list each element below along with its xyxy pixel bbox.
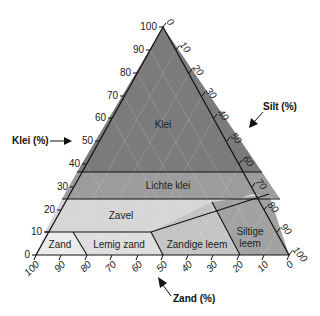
silt-axis-title: Silt (%) [263,101,297,112]
sand-tick: 90 [52,258,68,274]
sand-tick: 50 [154,258,170,274]
sand-tick: 20 [229,258,246,275]
clay-tick: 10 [31,226,43,237]
label-zand: Zand [49,239,72,250]
sand-arrow-icon [158,277,171,296]
clay-tick: 100 [140,21,157,32]
label-siltige-leem-2: leem [239,238,261,249]
sand-tick: 80 [78,258,94,274]
clay-axis-title: Klei (%) [12,135,49,146]
sand-tick: 30 [204,258,220,274]
label-lichte-klei: Lichte klei [146,180,190,191]
clay-tick: 40 [69,158,81,169]
clay-tick: 50 [82,135,94,146]
clay-tick: 20 [44,204,56,215]
silt-tick: 0 [164,16,176,28]
soil-texture-triangle: 100 90 80 70 60 50 40 30 20 10 0 0 10 20… [0,0,320,316]
clay-tick: 90 [133,44,145,55]
label-zavel: Zavel [109,210,133,221]
clay-tick: 30 [57,181,69,192]
sand-tick: 0 [284,258,296,270]
label-klei: Klei [155,119,172,130]
clay-tick: 60 [95,112,107,123]
sand-tick: 10 [255,258,271,274]
label-zandige-leem: Zandige leem [167,239,228,250]
clay-tick: 80 [120,67,132,78]
clay-arrow-icon [50,137,72,145]
sand-tick: 40 [179,258,195,274]
silt-tick: 100 [290,244,309,264]
label-lemig-zand: Lemig zand [93,239,145,250]
sand-tick: 70 [103,258,119,274]
sand-tick: 100 [22,258,42,278]
silt-arrow-icon [249,112,263,128]
label-siltige-leem-1: Siltige [236,226,264,237]
clay-tick: 0 [24,249,30,260]
sand-tick: 60 [129,258,145,274]
sand-axis-title: Zand (%) [173,293,215,304]
region-klei [77,27,262,172]
clay-tick: 70 [107,90,119,101]
